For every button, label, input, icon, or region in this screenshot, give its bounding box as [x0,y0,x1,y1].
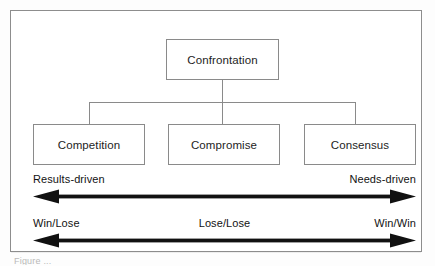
figure-frame: Confrontation Competition Compromise Con… [10,10,422,252]
connector-drop-competition [89,102,90,124]
connector-bus [89,102,356,103]
outcome-spectrum-right-label: Win/Win [374,217,416,229]
driver-spectrum: Results-driven Needs-driven [33,173,416,207]
double-headed-arrow-icon [33,188,416,205]
node-confrontation: Confrontation [166,39,279,80]
node-compromise: Compromise [168,124,280,165]
outcome-spectrum: Win/Lose Lose/Lose Win/Win [33,217,416,251]
caption-sliver: Figure ... [14,256,134,265]
double-headed-arrow-icon [33,232,416,249]
outcome-spectrum-left-label: Win/Lose [33,217,80,229]
driver-spectrum-left-label: Results-driven [33,173,105,185]
node-competition: Competition [33,124,145,165]
node-consensus: Consensus [304,124,416,165]
connector-drop-consensus [355,102,356,124]
outcome-spectrum-center-label: Lose/Lose [199,217,251,229]
conflict-spectrum-figure: Confrontation Competition Compromise Con… [0,0,435,266]
driver-spectrum-right-label: Needs-driven [349,173,416,185]
